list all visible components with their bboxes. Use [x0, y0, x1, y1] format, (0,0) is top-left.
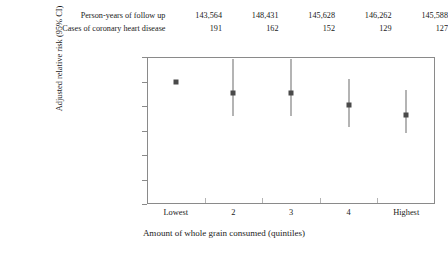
data-point-marker: [404, 112, 409, 117]
cell-cases-q2: 162: [222, 22, 279, 35]
error-bar: [233, 59, 234, 115]
data-point-marker: [289, 90, 294, 95]
y-tick-mark: [142, 82, 147, 83]
x-tick-label: Highest: [371, 208, 441, 217]
summary-table: Person-years of follow up 143,564 148,43…: [0, 9, 448, 35]
row-label-cases: Cases of coronary heart disease: [0, 22, 165, 35]
x-axis-title: Amount of whole grain consumed (quintile…: [0, 228, 448, 238]
cell-cases-q3: 152: [278, 22, 335, 35]
cell-cases-q5: 127: [391, 22, 448, 35]
data-point-marker: [173, 79, 178, 84]
x-tick-mark: [320, 198, 321, 203]
cell-cases-q1: 191: [165, 22, 222, 35]
table-row: Person-years of follow up 143,564 148,43…: [0, 9, 448, 22]
cell-cases-q4: 129: [335, 22, 392, 35]
table-row: Cases of coronary heart disease 191 162 …: [0, 22, 448, 35]
y-tick-mark: [142, 131, 147, 132]
cell-person-years-q2: 148,431: [222, 9, 279, 22]
x-tick-mark: [262, 198, 263, 203]
error-bar: [291, 59, 292, 115]
row-label-person-years: Person-years of follow up: [0, 9, 165, 22]
cell-person-years-q3: 145,628: [278, 9, 335, 22]
cell-person-years-q1: 143,564: [165, 9, 222, 22]
y-tick-mark: [142, 155, 147, 156]
y-tick-mark: [142, 57, 147, 58]
y-tick-mark: [142, 106, 147, 107]
x-tick-mark: [377, 198, 378, 203]
y-tick-mark: [142, 204, 147, 205]
cell-person-years-q5: 145,588: [391, 9, 448, 22]
y-tick-mark: [142, 180, 147, 181]
data-point-marker: [346, 102, 351, 107]
y-axis-title: Adjusted relative risk (95% CI): [55, 0, 64, 134]
data-point-marker: [231, 90, 236, 95]
summary-table-body: Person-years of follow up 143,564 148,43…: [0, 9, 448, 35]
x-tick-mark: [205, 198, 206, 203]
cell-person-years-q4: 146,262: [335, 9, 392, 22]
figure-container: Person-years of follow up 143,564 148,43…: [0, 0, 448, 258]
